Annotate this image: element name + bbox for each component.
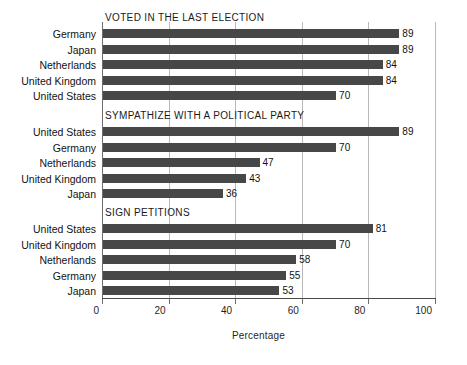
bar-category-label: Germany <box>0 142 96 155</box>
bar-category-label: Japan <box>0 285 96 298</box>
bar-category-label: Japan <box>0 44 96 57</box>
bar-row: Japan89 <box>0 43 467 58</box>
bar-row: United Kingdom70 <box>0 238 467 253</box>
panel-title: SYMPATHIZE WITH A POLITICAL PARTY <box>105 110 304 121</box>
bar-row: Germany55 <box>0 269 467 284</box>
bar-category-label: Netherlands <box>0 254 96 267</box>
bar-category-label: United States <box>0 90 96 103</box>
bar-row: United States81 <box>0 222 467 237</box>
bar <box>103 76 383 85</box>
panel-title: VOTED IN THE LAST ELECTION <box>105 12 264 23</box>
bar-value-label: 53 <box>282 284 293 297</box>
bar-row: Germany89 <box>0 27 467 42</box>
bar-category-label: Germany <box>0 28 96 41</box>
bar-category-label: Netherlands <box>0 157 96 170</box>
x-tick-label-20: 20 <box>154 305 168 317</box>
bar-value-label: 89 <box>402 125 413 138</box>
x-tick-label-80: 80 <box>354 305 368 317</box>
bar-row: United Kingdom43 <box>0 172 467 187</box>
bar-row: United States70 <box>0 89 467 104</box>
bar-row: Germany70 <box>0 141 467 156</box>
x-tick-mark-80 <box>368 299 369 304</box>
bar <box>103 45 399 54</box>
bar-value-label: 43 <box>249 172 260 185</box>
bar-value-label: 81 <box>376 222 387 235</box>
bar-category-label: United Kingdom <box>0 239 96 252</box>
bar <box>103 29 399 38</box>
panel-title: SIGN PETITIONS <box>105 207 190 218</box>
bar-value-label: 89 <box>402 43 413 56</box>
bar-category-label: Japan <box>0 188 96 201</box>
bar-row: Netherlands47 <box>0 156 467 171</box>
bar-value-label: 84 <box>386 74 397 87</box>
bar <box>103 143 336 152</box>
bar-value-label: 70 <box>339 89 350 102</box>
x-tick-mark-20 <box>169 299 170 304</box>
bar-chart-figure: VOTED IN THE LAST ELECTIONGermany89Japan… <box>0 0 467 365</box>
bar-value-label: 36 <box>226 187 237 200</box>
bar-value-label: 70 <box>339 238 350 251</box>
bar <box>103 240 336 249</box>
bar-value-label: 47 <box>263 156 274 169</box>
bar-row: Netherlands84 <box>0 58 467 73</box>
x-tick-mark-40 <box>235 299 236 304</box>
bar <box>103 174 246 183</box>
x-tick-label-60: 60 <box>288 305 302 317</box>
bar-category-label: United Kingdom <box>0 173 96 186</box>
x-tick-label-0: 0 <box>93 305 102 317</box>
bar <box>103 286 279 295</box>
bar-value-label: 55 <box>289 269 300 282</box>
bar-row: United States89 <box>0 125 467 140</box>
x-axis-line <box>102 298 436 299</box>
bar-category-label: Germany <box>0 270 96 283</box>
bar-row: Japan36 <box>0 187 467 202</box>
bar-row: United Kingdom84 <box>0 74 467 89</box>
x-axis-title: Percentage <box>0 330 467 341</box>
bar-value-label: 84 <box>386 58 397 71</box>
x-tick-mark-100 <box>435 299 436 304</box>
x-tick-mark-0 <box>102 299 103 304</box>
bar-category-label: United States <box>0 223 96 236</box>
bar-value-label: 70 <box>339 141 350 154</box>
x-tick-mark-60 <box>302 299 303 304</box>
bar <box>103 255 296 264</box>
x-axis-title-label: Percentage <box>232 330 285 341</box>
bar <box>103 127 399 136</box>
bar-value-label: 58 <box>299 253 310 266</box>
bar-category-label: United Kingdom <box>0 75 96 88</box>
bar <box>103 60 383 69</box>
bar <box>103 91 336 100</box>
bar <box>103 158 260 167</box>
x-tick-label-100: 100 <box>415 305 435 317</box>
bar <box>103 189 223 198</box>
x-tick-label-40: 40 <box>221 305 235 317</box>
bar-category-label: United States <box>0 126 96 139</box>
bar-value-label: 89 <box>402 27 413 40</box>
bar-category-label: Netherlands <box>0 59 96 72</box>
bar-row: Netherlands58 <box>0 253 467 268</box>
bar <box>103 224 373 233</box>
bar <box>103 271 286 280</box>
